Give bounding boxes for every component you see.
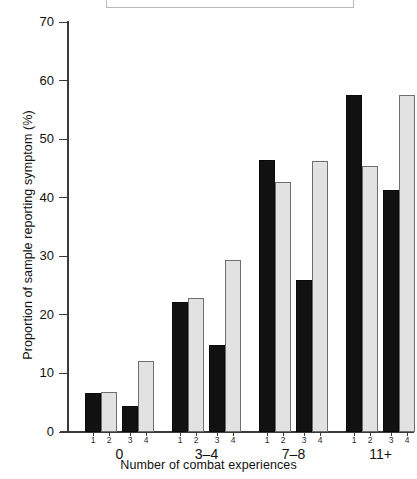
bar-group-0-series-1	[85, 393, 101, 432]
bar-group-0-series-2	[101, 392, 117, 432]
bar-group-0-series-3	[122, 406, 138, 432]
series-number-label: 4	[228, 436, 238, 445]
x-axis-title: Number of combat experiences	[0, 458, 417, 472]
bar-group-2-series-1	[259, 160, 275, 432]
series-number-label: 2	[191, 436, 201, 445]
series-number-label: 4	[141, 436, 151, 445]
series-number-label: 1	[349, 436, 359, 445]
y-axis-tick-label-text: 70	[20, 15, 54, 28]
bar-group-1-series-4	[225, 260, 241, 432]
series-number-label: 2	[104, 436, 114, 445]
y-axis-tick-mark	[59, 373, 68, 374]
top-annotation-box	[106, 0, 354, 8]
series-number-label: 4	[402, 436, 412, 445]
series-number-label: 2	[365, 436, 375, 445]
bar-group-1-series-3	[209, 345, 225, 432]
bar-group-3-series-3	[383, 190, 399, 432]
bar-group-1-series-1	[172, 302, 188, 432]
series-number-label: 2	[278, 436, 288, 445]
y-axis-tick-mark	[59, 139, 68, 140]
bar-group-2-series-2	[275, 182, 291, 432]
y-axis-tick-label: 70	[16, 15, 54, 28]
y-axis-tick-mark	[59, 432, 68, 433]
bar-group-3-series-1	[346, 95, 362, 432]
bar-group-2-series-4	[312, 161, 328, 432]
series-number-label: 1	[262, 436, 272, 445]
y-axis-tick-mark	[59, 314, 68, 315]
bar-chart-figure: 010203040506070 1234012343–412347–812341…	[0, 0, 417, 479]
series-number-label: 4	[315, 436, 325, 445]
bar-group-0-series-4	[138, 361, 154, 432]
y-axis-line	[67, 21, 69, 433]
bar-group-2-series-3	[296, 280, 312, 432]
series-number-label: 1	[88, 436, 98, 445]
series-number-label: 1	[175, 436, 185, 445]
series-number-label: 3	[299, 436, 309, 445]
bar-group-3-series-2	[362, 166, 378, 433]
bar-group-1-series-2	[188, 298, 204, 432]
y-axis-tick-label: 0	[16, 425, 54, 438]
y-axis-tick-mark	[59, 256, 68, 257]
series-number-label: 3	[386, 436, 396, 445]
bar-group-3-series-4	[399, 95, 415, 432]
series-number-label: 3	[212, 436, 222, 445]
y-axis-tick-mark	[59, 80, 68, 81]
y-axis-tick-mark	[59, 197, 68, 198]
y-axis-title: Proportion of sample reporting symptom (…	[21, 85, 35, 385]
y-axis-tick-label-text: 0	[20, 425, 54, 438]
y-axis-tick-mark	[59, 22, 68, 23]
series-number-label: 3	[125, 436, 135, 445]
